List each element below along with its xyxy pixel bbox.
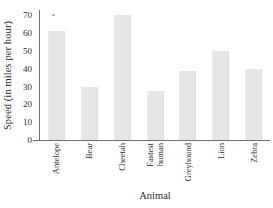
category-label: Fastesthuman: [145, 143, 165, 167]
bar-chart: Speed (in miles per hour) 01020304050607…: [0, 0, 273, 208]
bar: [212, 51, 229, 140]
bar-slot: [73, 10, 106, 140]
y-axis-title-text: Speed (in miles per hour): [3, 20, 14, 129]
bar-slot: [139, 10, 172, 140]
category-label-line: human: [155, 143, 165, 166]
category-label-slot: Bear: [73, 141, 106, 189]
category-label-line: Cheetah: [117, 143, 127, 171]
category-label: Zebra: [249, 143, 259, 163]
category-label-slot: Zebra: [237, 141, 270, 189]
category-label-slot: Lion: [204, 141, 237, 189]
bar: [81, 87, 98, 140]
bar: [179, 71, 196, 140]
y-axis-tick-label: 40: [23, 64, 32, 73]
category-label: Cheetah: [117, 143, 127, 171]
category-label: Bear: [84, 143, 94, 159]
category-label-line: Antelope: [51, 143, 61, 174]
category-label-slot: Greyhound: [171, 141, 204, 189]
category-label: Antelope: [51, 143, 61, 174]
category-label-line: Bear: [84, 143, 94, 159]
category-label-line: Zebra: [249, 143, 259, 163]
category-label-slot: Cheetah: [106, 141, 139, 189]
category-label-line: Fastest: [145, 143, 155, 167]
y-axis-title: Speed (in miles per hour): [0, 0, 16, 150]
category-label-line: Greyhound: [183, 143, 193, 181]
category-label-line: Lion: [216, 143, 226, 159]
x-axis-title: Animal: [40, 190, 270, 201]
category-label: Greyhound: [183, 143, 193, 181]
bar-slot: [171, 10, 204, 140]
bar: [245, 69, 262, 140]
y-axis-tick-label: 20: [23, 100, 32, 109]
y-axis-tick-label: 10: [23, 118, 32, 127]
bar: [147, 91, 164, 140]
y-axis-tick-labels: 010203040506070: [16, 8, 36, 142]
plot-area: [40, 10, 270, 140]
y-axis-tick-label: 50: [23, 46, 32, 55]
bar-slot: [40, 10, 73, 140]
y-axis-tick-label: 30: [23, 82, 32, 91]
bar-slot: [237, 10, 270, 140]
y-axis-tick-label: 70: [23, 11, 32, 20]
y-axis-tick-label: 0: [28, 136, 33, 145]
x-axis-category-labels: AntelopeBearCheetahFastesthumanGreyhound…: [40, 141, 270, 189]
bar: [114, 15, 131, 140]
category-label-slot: Antelope: [40, 141, 73, 189]
bar-slot: [204, 10, 237, 140]
y-axis-tick-label: 60: [23, 29, 32, 38]
bar: [48, 31, 65, 140]
bar-slot: [106, 10, 139, 140]
category-label-slot: Fastesthuman: [139, 141, 172, 189]
category-label: Lion: [216, 143, 226, 159]
bars-layer: [40, 10, 270, 140]
